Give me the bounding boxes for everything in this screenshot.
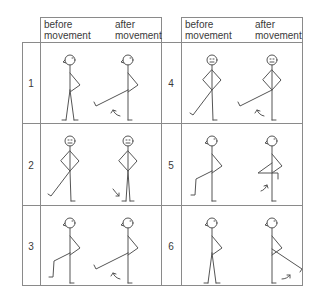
moving-leg-icon bbox=[238, 90, 272, 106]
moving-leg-icon bbox=[49, 253, 70, 277]
head-icon bbox=[267, 218, 277, 228]
standing-leg-icon bbox=[70, 90, 74, 120]
figure-1-before bbox=[62, 55, 80, 120]
movement-arrow-icon bbox=[111, 273, 120, 279]
row-number-6: 6 bbox=[162, 241, 180, 252]
arrow-shaft bbox=[282, 275, 290, 279]
movement-arrow-icon bbox=[111, 110, 120, 116]
header-line: after bbox=[255, 19, 302, 30]
arm-on-hip-icon bbox=[212, 154, 222, 173]
row-number-2: 2 bbox=[22, 160, 40, 171]
legs-icon bbox=[62, 90, 78, 120]
standing-leg-icon bbox=[212, 90, 213, 120]
head-icon bbox=[207, 55, 217, 65]
arrow-shaft bbox=[113, 273, 120, 279]
arm-on-hip-icon bbox=[70, 236, 80, 255]
legs-icon bbox=[94, 90, 132, 120]
figure-2-after bbox=[113, 136, 137, 201]
head-icon bbox=[207, 136, 217, 146]
figure-5-before bbox=[191, 136, 222, 201]
head-icon bbox=[123, 136, 133, 146]
standing-leg-icon bbox=[212, 253, 216, 283]
arrow-shaft bbox=[113, 189, 119, 196]
head-icon bbox=[123, 218, 133, 228]
exercise-table bbox=[0, 0, 314, 301]
arm-on-hip-icon bbox=[128, 73, 138, 92]
row-number-5: 5 bbox=[162, 160, 180, 171]
legs-icon bbox=[48, 171, 75, 201]
header-after-movement-left: after movement bbox=[115, 19, 162, 41]
leg-icon bbox=[126, 171, 128, 201]
arm-on-hip-icon bbox=[70, 73, 80, 92]
moving-leg-icon bbox=[190, 90, 212, 115]
legs-icon bbox=[94, 253, 132, 283]
figure-4-after bbox=[238, 55, 281, 120]
figure-6-after bbox=[265, 218, 302, 283]
moving-leg-icon bbox=[272, 249, 302, 272]
row-number-4: 4 bbox=[162, 78, 180, 89]
leg-icon bbox=[208, 253, 212, 283]
header-line: movement bbox=[115, 30, 162, 41]
arrow-shaft bbox=[257, 110, 264, 116]
figure-6-before bbox=[204, 218, 222, 283]
arm-on-hip-icon bbox=[212, 236, 222, 255]
leg-icon bbox=[66, 90, 70, 120]
figure-3-before bbox=[49, 218, 80, 283]
figure-5-after bbox=[258, 136, 282, 201]
head-icon bbox=[207, 218, 217, 228]
figure-2-before bbox=[48, 136, 79, 201]
movement-arrow-icon bbox=[261, 185, 268, 191]
row-number-3: 3 bbox=[22, 241, 40, 252]
header-line: movement bbox=[44, 30, 91, 41]
head-icon bbox=[65, 136, 75, 146]
moving-leg-icon bbox=[94, 90, 128, 106]
legs-icon bbox=[190, 90, 217, 120]
moving-leg-icon bbox=[48, 171, 70, 196]
moving-leg-icon bbox=[94, 253, 128, 269]
head-icon bbox=[65, 218, 75, 228]
header-line: after bbox=[115, 19, 162, 30]
moving-leg-icon bbox=[191, 171, 212, 195]
legs-icon bbox=[49, 253, 74, 283]
head-icon bbox=[267, 136, 277, 146]
movement-arrow-icon bbox=[282, 275, 290, 279]
arrow-shaft bbox=[113, 110, 120, 116]
legs-icon bbox=[191, 171, 216, 201]
header-line: before bbox=[185, 19, 232, 30]
legs-icon bbox=[238, 90, 276, 120]
figure-1-after bbox=[94, 55, 138, 120]
header-line: movement bbox=[255, 30, 302, 41]
header-before-movement-right: before movement bbox=[185, 19, 232, 41]
figure-4-before bbox=[190, 55, 221, 120]
header-after-movement-right: after movement bbox=[255, 19, 302, 41]
head-icon bbox=[65, 55, 75, 65]
movement-arrow-icon bbox=[113, 189, 119, 196]
legs-icon bbox=[122, 171, 134, 201]
legs-icon bbox=[204, 253, 220, 283]
header-line: movement bbox=[185, 30, 232, 41]
figure-3-after bbox=[94, 218, 138, 283]
legs-icon bbox=[258, 163, 278, 201]
movement-arrow-icon bbox=[255, 110, 264, 116]
header-line: before bbox=[44, 19, 91, 30]
row-number-1: 1 bbox=[22, 78, 40, 89]
head-icon bbox=[267, 55, 277, 65]
head-icon bbox=[123, 55, 133, 65]
standing-leg-icon bbox=[128, 171, 130, 201]
arm-on-hip-icon bbox=[272, 154, 282, 173]
arm-on-hip-icon bbox=[128, 236, 138, 255]
standing-leg-icon bbox=[70, 171, 71, 201]
header-before-movement-left: before movement bbox=[44, 19, 91, 41]
